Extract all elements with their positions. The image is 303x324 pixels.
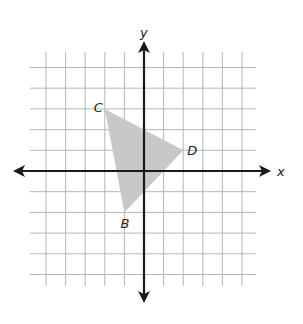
vertex-label-b: B [120, 216, 129, 231]
vertex-label-c: C [94, 100, 104, 115]
x-axis-label: x [276, 164, 285, 179]
vertex-label-d: D [187, 143, 197, 158]
coordinate-plane: x y C D B [0, 0, 303, 324]
y-axis-label: y [139, 25, 148, 40]
